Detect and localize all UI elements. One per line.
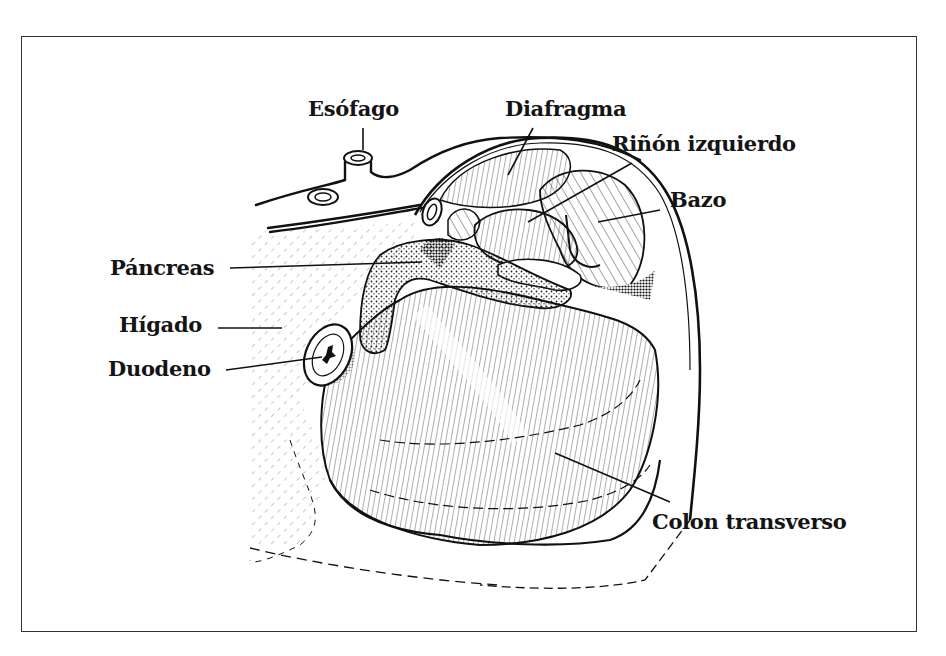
label-pancreas: Páncreas — [110, 255, 214, 280]
vessel-opening — [308, 189, 338, 205]
label-diaphragm: Diafragma — [505, 96, 626, 121]
stomach — [321, 287, 658, 545]
label-duodenum: Duodeno — [108, 356, 211, 381]
label-liver: Hígado — [119, 312, 202, 337]
label-transverse-colon: Colon transverso — [652, 509, 846, 534]
label-left-kidney: Riñón izquierdo — [612, 131, 796, 156]
label-esophagus: Esófago — [308, 96, 399, 121]
esophagus-opening — [344, 128, 372, 165]
label-spleen: Bazo — [670, 187, 726, 212]
